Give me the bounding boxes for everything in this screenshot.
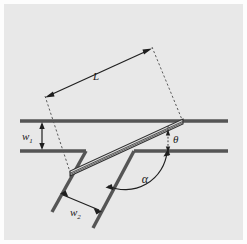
dimension-w1-label: w1 <box>22 130 33 145</box>
diagram-canvas: L w1 w2 θ <box>0 0 247 244</box>
dimension-w2: w2 <box>60 191 102 221</box>
dimension-L-label: L <box>92 70 99 82</box>
dimension-w2-label-subscript: 2 <box>77 213 81 221</box>
dimension-w1: w1 <box>22 122 45 150</box>
dashed-projection-right <box>152 47 183 122</box>
dimension-w1-arrowhead-top <box>39 122 44 129</box>
dashed-projection-left <box>45 96 71 175</box>
dimension-L: L <box>45 49 152 98</box>
channel-walls <box>20 121 228 228</box>
angle-alpha-label: α <box>142 172 149 186</box>
dimension-w2-line <box>63 195 99 210</box>
dimension-w1-label-subscript: 1 <box>29 137 33 145</box>
dimension-w2-label: w2 <box>70 206 81 221</box>
figure-container: L w1 w2 θ <box>0 0 247 244</box>
angle-alpha-arrowhead-start <box>106 184 114 190</box>
dimension-L-arrowhead-right <box>143 49 153 55</box>
angle-theta-label: θ <box>173 133 179 145</box>
dimension-w1-arrowhead-bottom <box>39 143 44 150</box>
dimension-L-arrowhead-left <box>45 92 55 98</box>
